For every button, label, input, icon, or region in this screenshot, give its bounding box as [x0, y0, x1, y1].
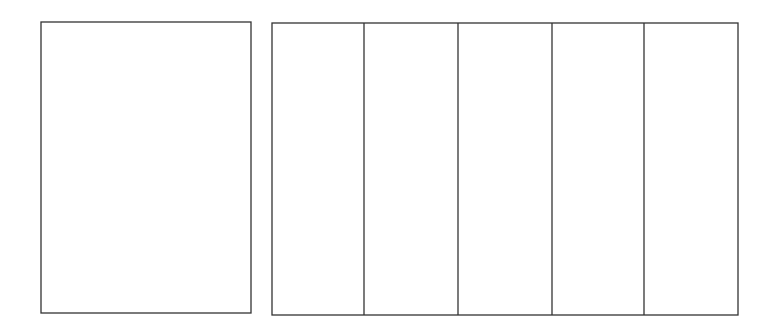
divided-rectangle [272, 23, 738, 315]
divided-rectangle-outline [272, 23, 738, 315]
whole-rectangle [41, 22, 251, 313]
diagram-canvas [0, 0, 770, 328]
